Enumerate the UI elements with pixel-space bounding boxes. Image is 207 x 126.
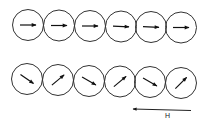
moment-arrow-icon <box>114 76 126 86</box>
particle <box>136 12 167 43</box>
moment-arrow-icon <box>143 27 159 28</box>
moment-arrow-icon <box>82 77 96 85</box>
moment-arrow-icon <box>20 74 33 83</box>
particle <box>44 10 75 41</box>
particle <box>13 10 44 41</box>
magnetic-chain-diagram <box>0 0 207 126</box>
particle <box>105 66 136 97</box>
particle <box>74 66 105 97</box>
particle <box>166 12 197 43</box>
moment-arrow-icon <box>113 26 129 27</box>
field-arrow-icon <box>133 109 191 111</box>
particle <box>166 68 197 99</box>
moment-arrow-icon <box>175 77 186 88</box>
particle <box>12 64 43 95</box>
particle <box>43 65 74 96</box>
field-label-h: H <box>165 112 170 119</box>
particle <box>106 11 137 42</box>
particle <box>135 67 166 98</box>
moment-arrow-icon <box>143 78 157 86</box>
aligned-particle-row <box>13 10 197 44</box>
particle <box>75 11 106 42</box>
moment-arrow-icon <box>52 75 64 85</box>
applied-field-arrow <box>133 109 191 111</box>
alternating-particle-row <box>12 64 197 99</box>
